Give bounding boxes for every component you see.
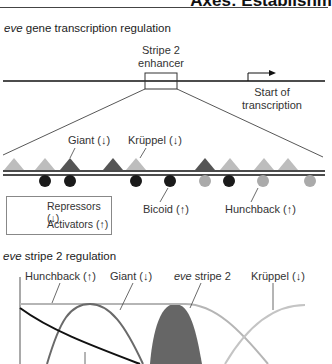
triangle-site bbox=[220, 158, 240, 170]
label-kruppel: Krüppel (↓) bbox=[128, 134, 182, 146]
panel-b-title: eve stripe 2 regulation bbox=[3, 250, 116, 262]
triangle-site bbox=[35, 158, 55, 170]
circle-site bbox=[39, 175, 51, 187]
transcription-start-arrow-icon bbox=[248, 70, 276, 81]
circle-site bbox=[130, 175, 142, 187]
triangle-site bbox=[60, 158, 80, 170]
kruppel-curve bbox=[225, 305, 305, 364]
repressor-sites bbox=[4, 158, 298, 170]
b-label-kruppel: Krüppel (↓) bbox=[251, 270, 305, 282]
triangle-site bbox=[254, 158, 274, 170]
bicoid-curve bbox=[20, 308, 140, 364]
triangle-site bbox=[4, 158, 24, 170]
giant-curve bbox=[47, 304, 143, 364]
triangle-site bbox=[103, 158, 123, 170]
label-hunchback: Hunchback (↑) bbox=[225, 203, 296, 215]
circle-site bbox=[304, 175, 316, 187]
circle-site bbox=[64, 175, 76, 187]
triangle-site bbox=[278, 158, 298, 170]
b-label-hunchback: Hunchback (↑) bbox=[25, 270, 96, 282]
circle-site bbox=[164, 175, 176, 187]
label-bicoid: Bicoid (↑) bbox=[143, 203, 189, 215]
b-label-eve-stripe-2: eve stripe 2 bbox=[174, 270, 231, 282]
b-label-giant: Giant (↓) bbox=[110, 270, 152, 282]
legend-activators: Activators (↑) bbox=[47, 218, 108, 230]
label-giant: Giant (↓) bbox=[68, 134, 110, 146]
triangle-site bbox=[126, 158, 146, 170]
triangle-site bbox=[195, 158, 215, 170]
activator-sites bbox=[39, 175, 316, 187]
eve-stripe-2-peak bbox=[150, 304, 202, 364]
circle-site bbox=[223, 175, 235, 187]
legend: Repressors (↓) Activators (↑) bbox=[6, 196, 112, 235]
circle-site bbox=[199, 175, 211, 187]
circle-site bbox=[257, 175, 269, 187]
